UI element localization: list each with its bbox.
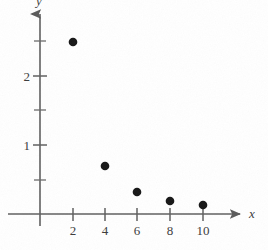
y-tick-label-1: 1 — [16, 139, 30, 152]
scatter-plot-figure: 2 4 6 8 10 1 2 x y — [0, 0, 268, 250]
x-axis-label: x — [249, 207, 255, 220]
x-tick-label-6: 6 — [134, 224, 141, 237]
x-tick-label-8: 8 — [167, 224, 174, 237]
data-point — [69, 38, 78, 47]
data-points — [69, 38, 208, 210]
data-point — [101, 162, 110, 171]
data-point — [199, 201, 208, 210]
data-point — [166, 197, 175, 206]
y-tick-label-2: 2 — [16, 70, 30, 83]
y-axis-label: y — [36, 0, 42, 7]
x-tick-label-2: 2 — [70, 224, 77, 237]
x-tick-label-4: 4 — [102, 224, 109, 237]
x-tick-label-10: 10 — [197, 224, 210, 237]
plot-canvas — [0, 0, 268, 250]
data-point — [133, 188, 142, 197]
